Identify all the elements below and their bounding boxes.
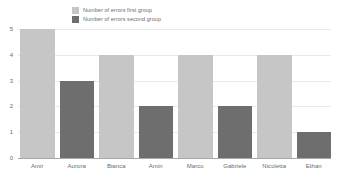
bar[interactable] — [297, 132, 332, 158]
bar[interactable] — [257, 55, 292, 158]
bar-slot — [60, 29, 95, 158]
bar[interactable] — [20, 29, 55, 158]
legend-label-second-group: Number of errors second group — [83, 16, 161, 23]
y-axis-tick-label: 1 — [10, 129, 13, 135]
bar-slot — [99, 29, 134, 158]
x-axis-tick-label: Bianca — [99, 162, 134, 170]
bar-slot — [139, 29, 174, 158]
chart-legend: Number of errors first group Number of e… — [72, 7, 161, 23]
y-axis-tick-label: 5 — [10, 26, 13, 32]
bar-group — [20, 29, 331, 158]
x-axis-tick-label: Gabriele — [218, 162, 253, 170]
bar-slot — [257, 29, 292, 158]
y-axis-tick-label: 0 — [10, 155, 13, 161]
y-axis-tick-label: 2 — [10, 103, 13, 109]
x-axis-tick-label: Aurora — [60, 162, 95, 170]
bar[interactable] — [218, 106, 253, 158]
legend-swatch-second-group — [72, 16, 79, 23]
plot-area: 543210 — [18, 29, 331, 158]
bar[interactable] — [99, 55, 134, 158]
x-axis-tick-label: Ethan — [297, 162, 332, 170]
bar-slot — [20, 29, 55, 158]
x-axis-tick-label: Marco — [178, 162, 213, 170]
bar-slot — [297, 29, 332, 158]
y-axis-tick-label: 3 — [10, 78, 13, 84]
legend-label-first-group: Number of errors first group — [83, 7, 152, 14]
bar[interactable] — [139, 106, 174, 158]
x-axis-tick-label: Nicoletta — [257, 162, 292, 170]
bar-slot — [218, 29, 253, 158]
bar[interactable] — [178, 55, 213, 158]
x-axis-labels: AmirAuroraBiancaAminMarcoGabrieleNicolet… — [20, 162, 331, 170]
x-axis-tick-label: Amin — [139, 162, 174, 170]
legend-item-first-group: Number of errors first group — [72, 7, 161, 14]
legend-swatch-first-group — [72, 7, 79, 14]
x-axis-tick-label: Amir — [20, 162, 55, 170]
legend-item-second-group: Number of errors second group — [72, 16, 161, 23]
axis-baseline: 0 — [18, 158, 331, 159]
bar-slot — [178, 29, 213, 158]
y-axis-tick-label: 4 — [10, 52, 13, 58]
bar-chart: Number of errors first group Number of e… — [0, 0, 338, 190]
bar[interactable] — [60, 81, 95, 158]
